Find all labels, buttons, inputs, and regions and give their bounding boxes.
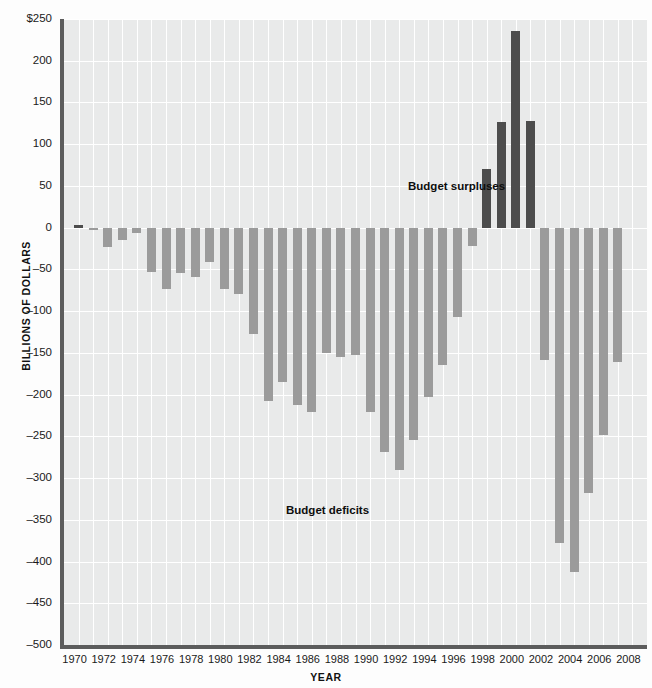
gridline-vertical bbox=[108, 19, 109, 645]
bar-1998 bbox=[482, 169, 491, 227]
bar-2003 bbox=[555, 228, 564, 544]
gridline-vertical bbox=[530, 19, 531, 645]
y-tick-label: 200 bbox=[0, 55, 52, 67]
bar-1982 bbox=[249, 228, 258, 335]
gridline-horizontal bbox=[64, 645, 647, 646]
bar-1980 bbox=[220, 228, 229, 290]
x-axis-title: YEAR bbox=[0, 671, 652, 683]
y-tick-label: –200 bbox=[0, 389, 52, 401]
bar-1983 bbox=[264, 228, 273, 402]
gridline-vertical bbox=[181, 19, 182, 645]
gridline-vertical bbox=[487, 19, 488, 645]
x-tick-label: 2008 bbox=[608, 654, 648, 665]
bar-2006 bbox=[599, 228, 608, 435]
bar-1977 bbox=[176, 228, 185, 273]
y-tick-label: 50 bbox=[0, 180, 52, 192]
bar-1990 bbox=[366, 228, 375, 412]
bar-2002 bbox=[540, 228, 549, 360]
bar-1978 bbox=[191, 228, 200, 277]
gridline-vertical bbox=[632, 19, 633, 645]
gridline-vertical bbox=[210, 19, 211, 645]
bar-1997 bbox=[468, 228, 477, 246]
bar-1991 bbox=[380, 228, 389, 453]
bar-1994 bbox=[424, 228, 433, 397]
gridline-vertical bbox=[93, 19, 94, 645]
gridline-vertical bbox=[166, 19, 167, 645]
gridline-vertical bbox=[501, 19, 502, 645]
bar-2001 bbox=[526, 121, 535, 228]
y-tick-label: –400 bbox=[0, 556, 52, 568]
gridline-vertical bbox=[458, 19, 459, 645]
gridline-vertical bbox=[122, 19, 123, 645]
bar-1973 bbox=[118, 228, 127, 241]
y-tick-label: –450 bbox=[0, 597, 52, 609]
bar-1976 bbox=[162, 228, 171, 290]
gridline-vertical bbox=[195, 19, 196, 645]
bar-2007 bbox=[613, 228, 622, 362]
y-axis-title: BILLIONS OF DOLLARS bbox=[20, 226, 32, 386]
bar-1974 bbox=[132, 228, 141, 233]
bar-1985 bbox=[293, 228, 302, 405]
bar-1999 bbox=[497, 122, 506, 227]
bar-2004 bbox=[570, 228, 579, 573]
y-tick-label: –300 bbox=[0, 472, 52, 484]
gridline-vertical bbox=[151, 19, 152, 645]
bar-1971 bbox=[89, 228, 98, 231]
gridline-vertical bbox=[239, 19, 240, 645]
bar-1984 bbox=[278, 228, 287, 382]
bar-2000 bbox=[511, 31, 520, 228]
y-tick-label: 100 bbox=[0, 138, 52, 150]
bar-1995 bbox=[438, 228, 447, 365]
bar-1986 bbox=[307, 228, 316, 412]
y-tick-label: $250 bbox=[0, 13, 52, 25]
bar-1996 bbox=[453, 228, 462, 317]
gridline-vertical bbox=[79, 19, 80, 645]
bar-1987 bbox=[322, 228, 331, 353]
bar-1981 bbox=[234, 228, 243, 294]
gridline-vertical bbox=[137, 19, 138, 645]
y-tick-label: 150 bbox=[0, 96, 52, 108]
bar-1988 bbox=[336, 228, 345, 357]
bar-1989 bbox=[351, 228, 360, 356]
plot-area: Budget surpluses Budget deficits bbox=[60, 19, 647, 649]
bar-1975 bbox=[147, 228, 156, 272]
bar-1972 bbox=[103, 228, 112, 247]
bar-1992 bbox=[395, 228, 404, 470]
budget-chart: Budget surpluses Budget deficits $250200… bbox=[0, 0, 652, 688]
gridline-vertical bbox=[224, 19, 225, 645]
gridline-vertical bbox=[472, 19, 473, 645]
bar-1979 bbox=[205, 228, 214, 262]
y-tick-label: –350 bbox=[0, 514, 52, 526]
bar-2005 bbox=[584, 228, 593, 493]
annotation-budget-surpluses: Budget surpluses bbox=[408, 180, 505, 192]
bar-1970 bbox=[74, 225, 83, 228]
y-tick-label: –250 bbox=[0, 430, 52, 442]
y-tick-label: –500 bbox=[0, 639, 52, 651]
annotation-budget-deficits: Budget deficits bbox=[286, 504, 369, 516]
bar-1993 bbox=[409, 228, 418, 441]
